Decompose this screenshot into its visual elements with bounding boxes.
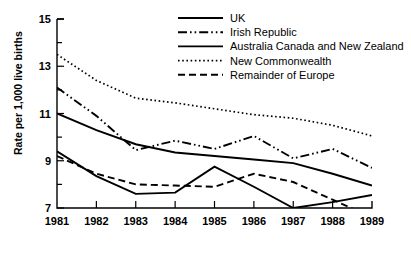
legend-item-remainder-of-europe: Remainder of Europe xyxy=(178,69,335,81)
x-axis-tick-labels: 198119821983198419851986198719881989 xyxy=(45,215,384,227)
x-tick-label: 1985 xyxy=(202,215,226,227)
x-tick-label: 1981 xyxy=(45,215,69,227)
y-tick-label: 7 xyxy=(45,202,51,214)
x-tick-label: 1988 xyxy=(320,215,344,227)
legend-item-australia-canada-and-new-zealand: Australia Canada and New Zealand xyxy=(178,40,404,52)
series-line-australia-canada-and-new-zealand xyxy=(57,151,372,208)
legend-item-uk: UK xyxy=(178,12,246,24)
chart-legend: UKIrish RepublicAustralia Canada and New… xyxy=(178,12,404,81)
legend-label-remainder-of-europe: Remainder of Europe xyxy=(230,69,335,81)
x-tick-label: 1982 xyxy=(84,215,108,227)
y-axis-title: Rate per 1,000 live births xyxy=(12,31,24,155)
legend-label-australia-canada-and-new-zealand: Australia Canada and New Zealand xyxy=(230,40,404,52)
legend-label-uk: UK xyxy=(230,12,246,24)
x-tick-label: 1983 xyxy=(124,215,148,227)
y-tick-label: 15 xyxy=(39,13,51,25)
legend-item-irish-republic: Irish Republic xyxy=(178,26,297,38)
y-tick-label: 13 xyxy=(39,60,51,72)
legend-item-new-commonwealth: New Commonwealth xyxy=(178,55,331,67)
y-tick-label: 11 xyxy=(39,108,51,120)
x-tick-label: 1989 xyxy=(360,215,384,227)
y-axis-tick-labels: 79111315 xyxy=(39,13,51,214)
y-tick-label: 9 xyxy=(45,155,51,167)
legend-label-irish-republic: Irish Republic xyxy=(230,26,297,38)
legend-label-new-commonwealth: New Commonwealth xyxy=(230,55,331,67)
x-tick-label: 1986 xyxy=(242,215,266,227)
x-tick-label: 1987 xyxy=(281,215,305,227)
x-tick-label: 1984 xyxy=(163,215,188,227)
chart-canvas: Rate per 1,000 live births 79111315 1981… xyxy=(0,0,411,262)
series-line-uk xyxy=(57,114,372,186)
line-chart: Rate per 1,000 live births 79111315 1981… xyxy=(0,0,411,262)
